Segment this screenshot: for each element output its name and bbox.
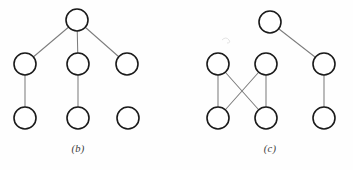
figure-background [0, 0, 353, 170]
graph-node-b5 [14, 107, 36, 129]
graph-node-c6 [255, 107, 277, 129]
graph-node-b7 [117, 107, 139, 129]
graph-node-b3 [67, 53, 89, 75]
graph-node-c5 [207, 107, 229, 129]
graph-node-c7 [313, 107, 335, 129]
graph-node-b2 [14, 53, 36, 75]
graph-node-b6 [67, 107, 89, 129]
graph-node-c3 [255, 53, 277, 75]
graph-node-b1 [66, 9, 88, 31]
graph-node-c4 [313, 53, 335, 75]
graph-node-c1 [259, 11, 281, 33]
graph-figure: (b) (c) [0, 0, 353, 170]
panel-caption-c: (c) [264, 143, 277, 155]
graph-node-c2 [207, 53, 229, 75]
panel-caption-b: (b) [71, 143, 84, 155]
graph-node-b4 [116, 53, 138, 75]
